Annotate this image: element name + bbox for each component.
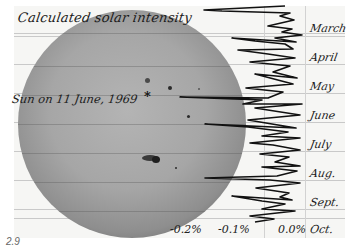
month-label-april: April — [309, 51, 339, 64]
month-label-july: July — [309, 138, 333, 151]
month-label-oct: Oct. — [309, 223, 334, 236]
month-label-june: June — [309, 109, 336, 122]
x-tick-zero: 0.0% — [278, 223, 306, 236]
month-label-aug: Aug. — [309, 167, 337, 180]
date-marker-asterisk-icon: * — [144, 89, 151, 104]
month-label-may: May — [309, 80, 335, 93]
figure-number: 2.9 — [6, 236, 20, 247]
month-label-sept: Sept. — [309, 196, 340, 209]
month-label-march: March — [309, 22, 348, 35]
sun-photo-label: Sun on 11 June, 1969 — [11, 92, 138, 106]
x-tick-minus-0-2: -0.2% — [170, 223, 202, 236]
x-tick-minus-0-1: -0.1% — [218, 223, 250, 236]
intensity-curve — [0, 0, 363, 251]
chart-title: Calculated solar intensity — [17, 10, 193, 25]
